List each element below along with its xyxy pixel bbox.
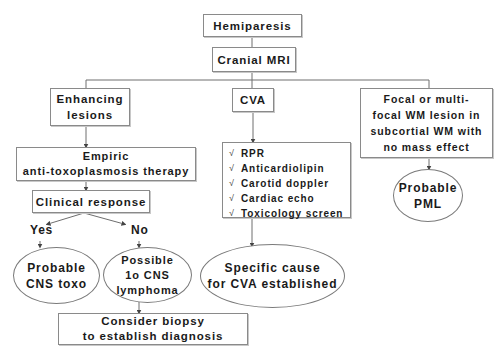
checklist-item: √ Anticardiolipin bbox=[229, 161, 350, 176]
consider-biopsy-line-2: to establish diagnosis bbox=[83, 329, 224, 344]
checklist-item-label: Anticardiolipin bbox=[241, 161, 325, 176]
checklist-item-label: Cardiac echo bbox=[241, 191, 315, 206]
hemiparesis-box: Hemiparesis bbox=[203, 14, 302, 37]
empiric-therapy-box: Empiric anti-toxoplasmosis therapy bbox=[16, 147, 196, 181]
enhancing-lesions-line-2: lesions bbox=[67, 107, 113, 123]
focal-wm-line-3: subcortial WM with bbox=[371, 123, 483, 139]
focal-wm-line-1: Focal or multi- bbox=[384, 91, 470, 107]
empiric-therapy-line-1: Empiric bbox=[83, 149, 130, 164]
specific-cause-line-1: Specific cause bbox=[225, 260, 321, 276]
probable-cns-toxo-line-1: Probable bbox=[27, 260, 86, 276]
probable-pml-line-1: Probable bbox=[399, 180, 458, 196]
check-icon: √ bbox=[229, 206, 241, 221]
cranial-mri-box: Cranial MRI bbox=[212, 47, 296, 72]
probable-cns-toxo-oval: Probable CNS toxo bbox=[13, 247, 100, 304]
probable-pml-line-2: PML bbox=[414, 196, 442, 212]
checklist-item: √ RPR bbox=[229, 146, 350, 161]
focal-wm-line-4: no mass effect bbox=[383, 139, 469, 155]
cva-workup-checklist: √ RPR √ Anticardiolipin √ Carotid dopple… bbox=[222, 142, 351, 218]
hemiparesis-label: Hemiparesis bbox=[213, 18, 291, 34]
clinical-response-box: Clinical response bbox=[32, 190, 150, 213]
focal-wm-line-2: focal WM lesion in bbox=[373, 107, 481, 123]
check-icon: √ bbox=[229, 191, 241, 206]
possible-cns-lymphoma-line-3: lymphoma bbox=[116, 283, 178, 298]
consider-biopsy-line-1: Consider biopsy bbox=[101, 314, 205, 329]
enhancing-lesions-box: Enhancing lesions bbox=[50, 88, 130, 126]
check-icon: √ bbox=[229, 161, 241, 176]
checklist-item: √ Cardiac echo bbox=[229, 191, 350, 206]
specific-cause-line-2: for CVA established bbox=[208, 276, 338, 292]
check-icon: √ bbox=[229, 146, 241, 161]
check-icon: √ bbox=[229, 176, 241, 191]
focal-wm-lesion-box: Focal or multi- focal WM lesion in subco… bbox=[360, 88, 493, 158]
checklist-item-label: RPR bbox=[241, 146, 265, 161]
empiric-therapy-line-2: anti-toxoplasmosis therapy bbox=[23, 164, 189, 179]
clinical-response-label: Clinical response bbox=[36, 194, 147, 210]
cranial-mri-label: Cranial MRI bbox=[217, 52, 290, 68]
possible-cns-lymphoma-line-2: 1o CNS bbox=[125, 268, 170, 283]
checklist-item-label: Toxicology screen bbox=[241, 206, 343, 221]
specific-cause-cva-oval: Specific cause for CVA established bbox=[200, 244, 345, 308]
checklist-item-label: Carotid doppler bbox=[241, 176, 329, 191]
checklist-item: √ Toxicology screen bbox=[229, 206, 350, 221]
checklist-item: √ Carotid doppler bbox=[229, 176, 350, 191]
consider-biopsy-box: Consider biopsy to establish diagnosis bbox=[58, 313, 248, 345]
possible-cns-lymphoma-oval: Possible 1o CNS lymphoma bbox=[103, 247, 192, 303]
probable-cns-toxo-line-2: CNS toxo bbox=[26, 276, 87, 292]
edge-label-no: No bbox=[131, 223, 149, 237]
edge-label-yes: Yes bbox=[30, 223, 53, 237]
possible-cns-lymphoma-line-1: Possible bbox=[121, 253, 173, 268]
cva-box: CVA bbox=[232, 88, 274, 112]
enhancing-lesions-line-1: Enhancing bbox=[57, 91, 124, 107]
probable-pml-oval: Probable PML bbox=[393, 169, 463, 222]
cva-label: CVA bbox=[240, 92, 266, 108]
